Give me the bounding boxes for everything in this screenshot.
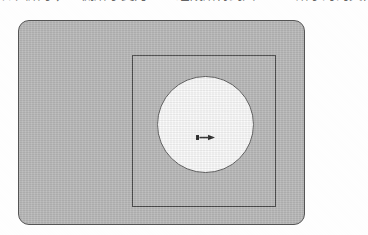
scanned-page: 如图所示，一侧所示变为 CD 组成所得到图 4-66 所示的的文件。: [0, 0, 368, 235]
double-arrow-marker-icon: [196, 134, 215, 141]
center-circle: [157, 76, 254, 173]
technical-figure: [0, 13, 368, 235]
caption-strip: 如图所示，一侧所示变为 CD 组成所得到图 4-66 所示的的文件。: [0, 0, 368, 13]
outer-rounded-rectangle: [18, 20, 305, 225]
caption-text: 如图所示，一侧所示变为 CD 组成所得到图 4-66 所示的的文件。: [2, 0, 368, 2]
